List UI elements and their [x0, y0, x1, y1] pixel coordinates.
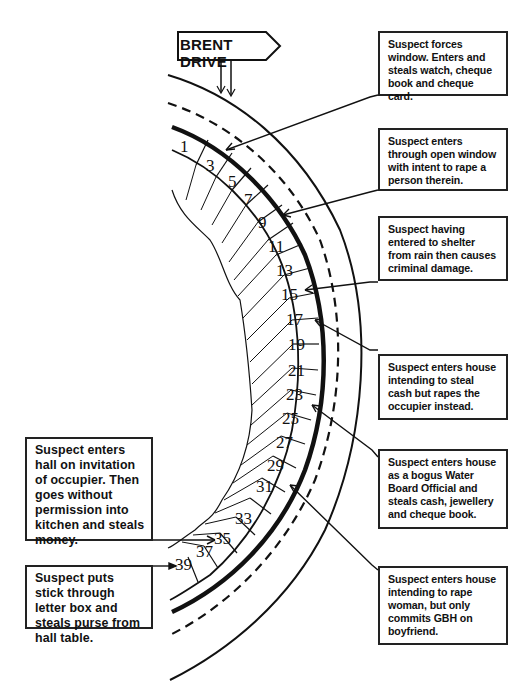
house-number: 27: [276, 433, 294, 452]
house-number: 39: [175, 555, 192, 574]
house-number: 35: [214, 529, 231, 548]
street-sign-label: BRENT DRIVE: [180, 36, 270, 70]
house-number: 25: [282, 409, 299, 428]
scenario-box: Suspect puts stick through letter box an…: [25, 565, 153, 629]
house-number: 19: [288, 335, 305, 354]
garden-dividers: [182, 165, 293, 546]
house-number: 13: [276, 261, 293, 280]
scenario-box: Suspect forces window. Enters and steals…: [378, 31, 508, 96]
house-number: 9: [258, 213, 267, 232]
house-number: 5: [228, 172, 237, 191]
scenario-box: Suspect enters house intending to steal …: [378, 354, 508, 420]
house-inner-line: [170, 150, 298, 600]
scenario-box: Suspect enters through open window with …: [378, 128, 508, 191]
house-number: 11: [268, 237, 284, 256]
scenario-box: Suspect enters house as a bogus Water Bo…: [378, 449, 508, 529]
scenario-box: Suspect enters house intending to rape w…: [378, 566, 508, 645]
road-outer-edge: [168, 75, 361, 680]
scenario-text: Suspect enters house intending to rape w…: [388, 573, 496, 637]
house-number: 21: [288, 361, 305, 380]
house-number: 15: [281, 285, 298, 304]
scenario-text: Suspect enters hall on invitation of occ…: [35, 443, 144, 547]
scenario-text: Suspect forces window. Enters and steals…: [388, 38, 492, 102]
scenario-box: Suspect enters hall on invitation of occ…: [25, 437, 153, 541]
house-number: 33: [235, 509, 252, 528]
scenario-text: Suspect enters through open window with …: [388, 135, 496, 186]
house-number: 17: [286, 310, 304, 329]
scenario-box: Suspect having entered to shelter from r…: [378, 216, 508, 281]
house-number: 1: [180, 137, 189, 156]
house-number: 37: [196, 542, 214, 561]
scenario-text: Suspect having entered to shelter from r…: [388, 223, 496, 274]
scenario-text: Suspect enters house as a bogus Water Bo…: [388, 456, 496, 520]
house-number: 29: [267, 456, 284, 475]
house-number: 31: [256, 477, 273, 496]
back-garden-line: [168, 190, 252, 548]
scenario-text: Suspect enters house intending to steal …: [388, 361, 496, 412]
house-number: 23: [286, 385, 303, 404]
house-number: 7: [244, 190, 253, 209]
house-number: 3: [206, 156, 215, 175]
sign-arrowhead: [217, 86, 235, 96]
